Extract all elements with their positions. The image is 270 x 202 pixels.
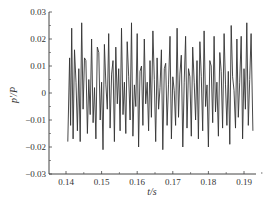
y-tick-label: 0.03 xyxy=(30,7,46,17)
chart: 0.030.020.010−0.01−0.02−0.03 0.140.150.1… xyxy=(0,0,270,202)
x-ticks: 0.140.150.160.170.180.19 xyxy=(58,171,262,187)
y-tick-label: −0.02 xyxy=(25,142,46,152)
x-tick-label: 0.19 xyxy=(236,177,252,187)
pressure-signal-line xyxy=(68,23,253,150)
x-axis-label: t/s xyxy=(147,186,157,197)
y-tick-label: −0.03 xyxy=(25,169,46,179)
x-tick-label: 0.16 xyxy=(129,177,145,187)
x-tick-label: 0.17 xyxy=(165,177,181,187)
y-tick-label: 0 xyxy=(42,88,47,98)
x-tick-label: 0.15 xyxy=(94,177,110,187)
x-tick-label: 0.14 xyxy=(58,177,74,187)
y-tick-label: 0.02 xyxy=(30,34,46,44)
y-axis-label: p'/P xyxy=(8,87,19,104)
y-tick-label: −0.01 xyxy=(25,115,46,125)
x-tick-label: 0.18 xyxy=(201,177,217,187)
y-ticks: 0.030.020.010−0.01−0.02−0.03 xyxy=(25,7,52,179)
y-tick-label: 0.01 xyxy=(30,61,46,71)
